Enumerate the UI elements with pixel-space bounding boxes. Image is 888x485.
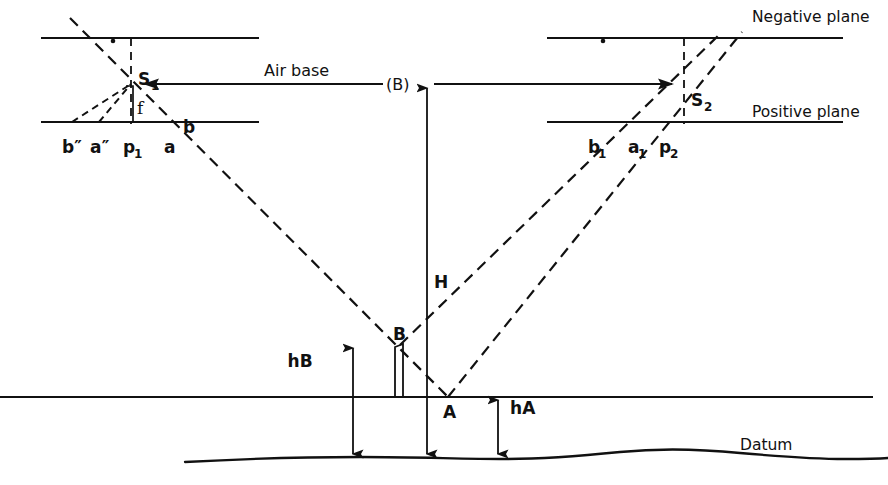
station-1-label: S: [138, 69, 150, 89]
diagram-canvas: S 1 f b″ a″ p 1 a b: [0, 0, 888, 485]
height-a-group: hA: [498, 398, 536, 454]
left-ray-a-doubleprime: [99, 84, 131, 122]
left-ray-b-doubleprime: [72, 84, 131, 122]
left-image-point-a-doubleprime-label: a″: [90, 137, 110, 157]
left-principal-point-subscript: 1: [134, 147, 142, 161]
left-negative-image-point-dot: [111, 39, 116, 44]
focal-length-label: f: [137, 98, 145, 118]
left-image-point-b-label: b: [183, 117, 195, 137]
height-b-group: hB: [288, 348, 353, 454]
flying-height-group: H: [427, 88, 448, 454]
point-a-label: A: [443, 402, 457, 422]
air-base-group: Air base (B): [145, 61, 672, 94]
datum-group: Datum: [185, 436, 888, 462]
point-b-label: B: [393, 324, 406, 344]
datum-label: Datum: [740, 436, 792, 454]
height-b-label: hB: [288, 351, 313, 371]
left-image-point-b-doubleprime-label: b″: [62, 137, 82, 157]
point-b-group: B: [393, 324, 406, 397]
station-2-subscript: 2: [704, 100, 712, 114]
photogrammetry-diagram: S 1 f b″ a″ p 1 a b: [0, 0, 888, 485]
station-1-subscript: 1: [151, 79, 159, 93]
right-ray-to-point-a: [448, 32, 742, 397]
right-ray-to-point-b: [400, 32, 722, 345]
right-image-point-a1-subscript: 1: [638, 147, 646, 161]
flying-height-label: H: [434, 272, 448, 292]
right-negative-image-point-dot: [601, 39, 606, 44]
air-base-label: Air base: [264, 61, 329, 80]
right-camera-group: S 2 b 1 a 1 p 2 Negative plane Positive …: [400, 8, 870, 397]
right-principal-point-subscript: 2: [670, 147, 678, 161]
negative-plane-label: Negative plane: [752, 8, 870, 26]
right-image-point-b1-subscript: 1: [598, 147, 606, 161]
positive-plane-label: Positive plane: [752, 103, 860, 121]
focal-length-bracket: [126, 86, 133, 122]
height-a-label: hA: [510, 398, 536, 418]
air-base-symbol-label: (B): [386, 75, 409, 94]
left-image-point-a-label: a: [164, 137, 176, 157]
station-2-label: S: [691, 90, 703, 110]
